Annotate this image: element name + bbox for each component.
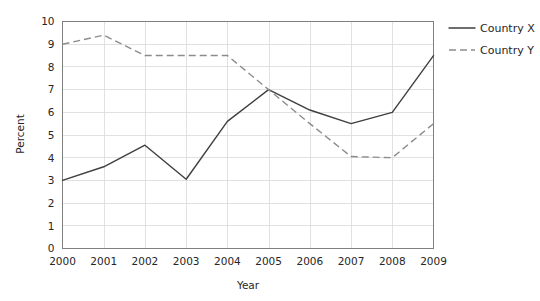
series-line-country-x [63,56,434,181]
x-tick-label: 2009 [420,255,447,267]
series-line-country-y [63,35,434,158]
y-tick-label: 2 [48,197,55,209]
y-tick-label: 5 [48,129,55,141]
y-tick-label: 1 [48,220,55,232]
x-tick-label: 2000 [49,255,76,267]
y-tick-label: 4 [48,152,55,164]
legend-label: Country X [480,22,535,35]
y-axis-tick-labels: 012345678910 [41,15,55,254]
y-tick-label: 8 [48,61,55,73]
line-chart: 012345678910 200020012002200320042005200… [0,0,540,301]
x-axis-title: Year [236,279,260,291]
legend-label: Country Y [480,44,534,57]
x-tick-label: 2006 [296,255,323,267]
y-tick-label: 7 [48,83,55,95]
x-tick-label: 2007 [338,255,365,267]
data-series-group [63,35,434,180]
x-axis-tick-labels: 2000200120022003200420052006200720082009 [49,255,447,267]
x-tick-label: 2004 [214,255,241,267]
legend: Country XCountry Y [449,22,535,57]
y-tick-label: 9 [48,38,55,50]
grid-lines [63,22,434,249]
x-tick-label: 2003 [173,255,200,267]
x-tick-label: 2001 [90,255,117,267]
x-tick-label: 2008 [379,255,406,267]
y-tick-label: 10 [41,15,54,27]
y-axis-title: Percent [14,114,26,154]
chart-canvas: 012345678910 200020012002200320042005200… [0,0,540,301]
y-tick-label: 3 [48,174,55,186]
x-tick-label: 2002 [132,255,159,267]
y-tick-label: 6 [48,106,55,118]
x-tick-label: 2005 [255,255,282,267]
y-tick-label: 0 [48,242,55,254]
